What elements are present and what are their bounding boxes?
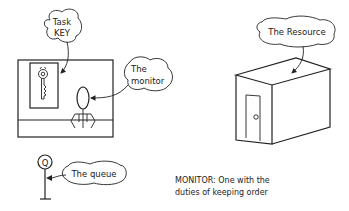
queue-label: The queue	[70, 169, 116, 179]
task-key-label-1: Task	[52, 17, 71, 27]
task-key-label-2: KEY	[54, 28, 71, 38]
caption: MONITOR: One with the duties of keeping …	[175, 176, 270, 197]
resource-label: The Resource	[267, 27, 326, 37]
resource-building-icon	[236, 58, 330, 144]
monitor-room	[18, 60, 113, 137]
monitor-callout: The monitor	[91, 57, 173, 98]
queue-callout: The queue	[52, 161, 126, 185]
monitor-person-icon	[71, 87, 95, 128]
monitor-diagram: Task KEY The monitor The Resource Q The …	[0, 0, 349, 211]
monitor-label-1: The	[130, 64, 147, 74]
monitor-label-2: monitor	[131, 76, 165, 86]
caption-line-1: MONITOR: One with the	[175, 176, 270, 185]
resource-callout: The Resource	[257, 16, 335, 73]
caption-line-2: duties of keeping order	[175, 188, 269, 197]
queue-symbol: Q	[42, 158, 49, 168]
key-icon	[30, 63, 58, 108]
queue-icon: Q	[38, 155, 52, 199]
